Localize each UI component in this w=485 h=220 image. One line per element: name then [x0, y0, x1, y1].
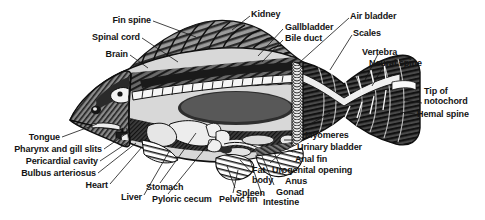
- label-anus: Anus: [285, 177, 307, 187]
- label-fin-spine: Fin spine: [112, 16, 151, 26]
- label-pericardial-cavity: Pericardial cavity: [26, 157, 98, 167]
- label-stomach: Stomach: [146, 183, 183, 193]
- label-kidney: Kidney: [251, 10, 280, 20]
- label-spleen: Spleen: [236, 189, 265, 199]
- label-fat-body: Fat body: [252, 166, 273, 185]
- label-heart: Heart: [85, 181, 108, 191]
- fish-illustration: [0, 0, 485, 220]
- label-brain: Brain: [105, 50, 128, 60]
- label-urinary-bladder: Urinary bladder: [297, 143, 362, 153]
- label-pyloric-cecum: Pyloric cecum: [152, 195, 212, 205]
- label-scales: Scales: [353, 29, 381, 39]
- label-bulbus-arteriosus: Bulbus arteriosus: [21, 169, 96, 179]
- label-hemal-spine: Hemal spine: [417, 110, 469, 120]
- label-tip-of-notochord: Tip of notochord: [424, 87, 468, 106]
- label-bile-duct: Bile duct: [285, 34, 322, 44]
- label-air-bladder: Air bladder: [350, 12, 396, 22]
- label-liver: Liver: [121, 193, 142, 203]
- label-gonad: Gonad: [276, 188, 304, 198]
- label-tongue: Tongue: [29, 133, 60, 143]
- label-spinal-cord: Spinal cord: [92, 33, 140, 43]
- label-urogenital-opening: Urogenital opening: [272, 166, 352, 176]
- label-anal-fin: Anal fin: [295, 155, 327, 165]
- fish-anatomy-figure: Fin spineSpinal cordBrainKidneyGallbladd…: [0, 0, 485, 220]
- label-gallbladder: Gallbladder: [285, 23, 333, 33]
- label-intestine: Intestine: [263, 198, 299, 208]
- label-pharynx-gill-slits: Pharynx and gill slits: [14, 145, 102, 155]
- label-neural-spine: Neural spine: [369, 59, 422, 69]
- label-myomeres: Myomeres: [305, 131, 349, 141]
- label-vertebra: Vertebra: [362, 48, 397, 58]
- pelvic-fin-shape: [216, 155, 254, 180]
